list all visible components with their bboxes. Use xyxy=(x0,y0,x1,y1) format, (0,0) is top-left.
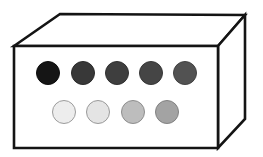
disc-light-1 xyxy=(53,101,76,124)
disc-dark-3 xyxy=(106,62,129,85)
disc-light-2 xyxy=(87,101,110,124)
disc-light-4 xyxy=(156,101,179,124)
disc-dark-2 xyxy=(72,62,95,85)
disc-dark-4 xyxy=(140,62,163,85)
disc-dark-5 xyxy=(174,62,197,85)
illustration-canvas xyxy=(0,0,263,157)
disc-dark-1 xyxy=(37,62,60,85)
box-with-discs-drawing xyxy=(0,0,263,157)
disc-light-3 xyxy=(122,101,145,124)
